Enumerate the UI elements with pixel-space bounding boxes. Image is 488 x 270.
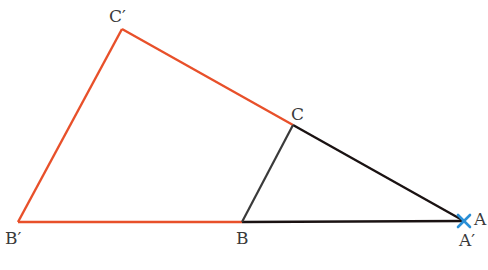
- label-a: A: [473, 209, 487, 229]
- segment-c-a: [293, 125, 464, 221]
- label-b-prime: B′: [5, 228, 21, 248]
- segment-b-c: [242, 125, 293, 222]
- segment-b-prime-c-prime: [18, 29, 122, 222]
- segment-b-a: [242, 221, 464, 222]
- segment-c-prime-c: [122, 29, 293, 125]
- label-c: C: [291, 104, 304, 124]
- label-c-prime: C′: [109, 6, 126, 26]
- label-a-prime: A′: [458, 230, 475, 250]
- homothety-diagram: C′ C B′ B A A′: [0, 0, 488, 270]
- label-b: B: [236, 228, 249, 248]
